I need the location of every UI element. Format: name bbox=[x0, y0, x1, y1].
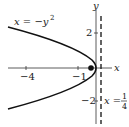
directrix-numerator: 1 bbox=[122, 92, 127, 101]
curve-equation-exponent: 2 bbox=[50, 14, 54, 22]
curve-equation-label: x = −y bbox=[14, 16, 49, 27]
x-axis-label: x bbox=[114, 62, 120, 73]
tick-label-x-neg1: −1 bbox=[72, 71, 87, 82]
focus-point bbox=[88, 65, 94, 71]
tick-label-y-neg2: −2 bbox=[81, 95, 96, 106]
tick-label-x-neg4: −4 bbox=[20, 71, 35, 82]
directrix-denominator: 4 bbox=[122, 102, 127, 111]
tick-label-y-2: 2 bbox=[86, 27, 92, 38]
directrix-label: x = bbox=[104, 95, 121, 106]
y-axis-label: y bbox=[92, 0, 99, 11]
parabola-diagram: y x −4 −1 2 −2 x = −y 2 x = 1 4 bbox=[0, 0, 129, 127]
